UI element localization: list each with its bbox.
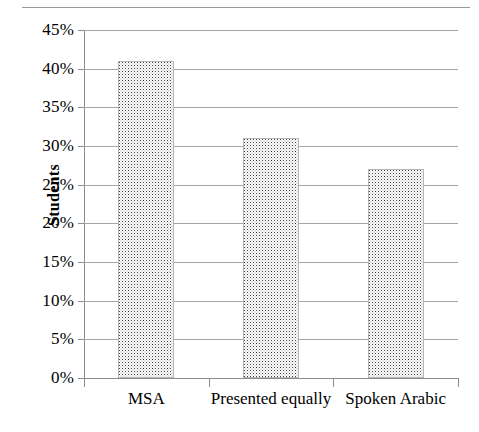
y-tick-label: 25% — [4, 176, 74, 193]
bar-msa — [118, 61, 174, 378]
top-divider-rule — [22, 7, 470, 8]
y-tick-label: 40% — [4, 60, 74, 77]
y-tick-label: 10% — [4, 292, 74, 309]
gridline-0 — [84, 378, 458, 379]
y-tick-label: 35% — [4, 98, 74, 115]
y-tick-label: 5% — [4, 330, 74, 347]
x-tick-label-presented-equally: Presented equally — [209, 389, 334, 409]
y-tick-label-wrap-15: 15% — [0, 253, 74, 271]
y-tick-label: 0% — [4, 369, 74, 386]
bar-spoken-arabic — [368, 169, 424, 378]
y-tick-label-wrap-0: 0% — [0, 369, 74, 387]
y-tick-label: 15% — [4, 253, 74, 270]
y-tick-label-wrap-20: 20% — [0, 214, 74, 232]
bar-presented-equally — [243, 138, 299, 378]
x-tick-label-msa: MSA — [84, 389, 209, 409]
plot-area — [84, 30, 458, 378]
x-axis-separator-3 — [458, 378, 459, 387]
x-axis-separator-1 — [209, 378, 210, 387]
y-tick-label-wrap-45: 45% — [0, 21, 74, 39]
x-axis-separator-2 — [333, 378, 334, 387]
y-tick-label-wrap-35: 35% — [0, 98, 74, 116]
y-tick-label: 30% — [4, 137, 74, 154]
y-tick-label-wrap-5: 5% — [0, 330, 74, 348]
bar-chart-figure: Students 45%40%35%30%25%20%15%10%5%0% MS… — [0, 0, 479, 432]
y-tick-label-wrap-40: 40% — [0, 60, 74, 78]
y-tick-label: 45% — [4, 21, 74, 38]
gridline-45 — [84, 30, 458, 31]
y-tick-label-wrap-30: 30% — [0, 137, 74, 155]
x-tick-label-spoken-arabic: Spoken Arabic — [333, 389, 458, 409]
y-tick-label-wrap-25: 25% — [0, 176, 74, 194]
x-axis-separator-0 — [84, 378, 85, 387]
y-tick-label-wrap-10: 10% — [0, 292, 74, 310]
y-tick-label: 20% — [4, 214, 74, 231]
